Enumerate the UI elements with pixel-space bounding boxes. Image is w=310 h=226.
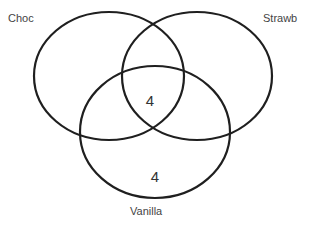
choc-set-ellipse bbox=[34, 12, 184, 140]
choc-label: Choc bbox=[8, 12, 34, 24]
venn-diagram bbox=[0, 0, 310, 226]
strawb-label: Strawb bbox=[263, 12, 297, 24]
vanilla-only-count: 4 bbox=[151, 168, 159, 185]
vanilla-label: Vanilla bbox=[130, 205, 162, 217]
all-three-intersection-count: 4 bbox=[146, 92, 154, 109]
